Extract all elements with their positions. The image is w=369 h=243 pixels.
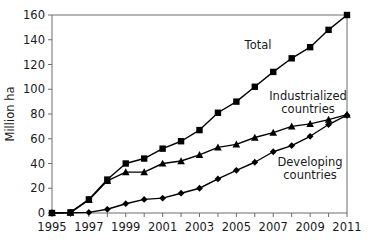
data-point-marker (233, 167, 240, 174)
data-point-marker (307, 44, 313, 50)
data-point-marker (270, 148, 277, 155)
x-tick-label: 2011 (332, 220, 361, 234)
data-point-marker (104, 206, 111, 213)
y-axis-title: Million ha (3, 86, 17, 141)
chart-container: 0204060801001201401601995199719992001200… (0, 0, 369, 243)
developing-label-line1: Developing (277, 155, 342, 169)
total-label: Total (244, 38, 272, 52)
developing-label-line2: countries (283, 168, 336, 182)
data-point-marker (196, 185, 203, 192)
data-point-marker (215, 110, 221, 116)
data-point-marker (122, 200, 129, 207)
data-point-marker (178, 138, 184, 144)
x-tick-label: 1995 (37, 220, 66, 234)
data-point-marker (344, 12, 350, 18)
data-point-marker (325, 27, 331, 33)
y-tick-label: 40 (30, 157, 45, 171)
x-tick-label: 1997 (74, 220, 103, 234)
data-point-marker (215, 176, 222, 183)
data-point-marker (123, 160, 129, 166)
data-point-marker (288, 142, 295, 149)
y-tick-label: 120 (23, 58, 45, 72)
data-point-marker (178, 190, 185, 197)
x-tick-label: 1999 (111, 220, 140, 234)
y-tick-label: 100 (23, 82, 45, 96)
data-point-marker (270, 69, 276, 75)
data-point-marker (251, 159, 258, 166)
industrialized-label-line1: Industrialized (269, 89, 347, 103)
data-point-marker (288, 55, 294, 61)
data-point-marker (141, 155, 147, 161)
data-point-marker (159, 145, 165, 151)
x-tick-label: 2005 (222, 220, 251, 234)
data-point-marker (85, 209, 92, 216)
y-tick-label: 20 (30, 181, 45, 195)
data-point-marker (307, 133, 314, 140)
x-tick-label: 2003 (185, 220, 214, 234)
x-tick-label: 2009 (295, 220, 324, 234)
data-point-marker (233, 98, 239, 104)
industrialized-label-line2: countries (281, 102, 334, 116)
data-point-marker (159, 195, 166, 202)
data-point-marker (252, 84, 258, 90)
y-tick-label: 60 (30, 132, 45, 146)
x-tick-label: 2007 (259, 220, 288, 234)
x-tick-label: 2001 (148, 220, 177, 234)
data-point-marker (141, 196, 148, 203)
line-chart: 0204060801001201401601995199719992001200… (0, 0, 369, 243)
y-tick-label: 140 (23, 33, 45, 47)
y-tick-label: 80 (30, 107, 45, 121)
y-tick-label: 160 (23, 8, 45, 22)
data-point-marker (196, 127, 202, 133)
y-tick-label: 0 (38, 206, 45, 220)
